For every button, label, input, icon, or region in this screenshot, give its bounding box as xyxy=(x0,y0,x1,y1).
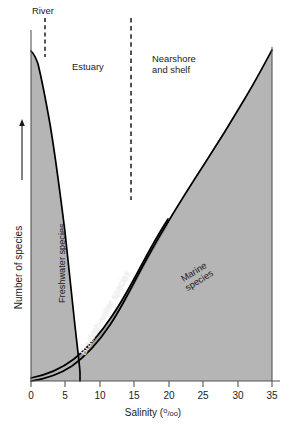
x-axis-title-text: Salinity ( xyxy=(125,407,163,418)
x-axis-title-close: ) xyxy=(178,407,181,418)
x-tick-label-20: 20 xyxy=(158,390,180,401)
zone-label-nearshore-and-shelf: Nearshore and shelf xyxy=(152,54,196,75)
y-axis-title: Number of species xyxy=(13,193,24,343)
chart-figure: River Estuary Nearshore and shelf Freshw… xyxy=(0,0,306,429)
zone-label-estuary: Estuary xyxy=(72,62,104,73)
x-tick-label-15: 15 xyxy=(123,390,145,401)
x-axis-ticks xyxy=(31,381,272,387)
permille-symbol: o/oo xyxy=(163,408,178,418)
x-tick-label-10: 10 xyxy=(89,390,111,401)
x-tick-label-25: 25 xyxy=(192,390,214,401)
y-axis-arrow-icon xyxy=(19,119,25,180)
x-tick-label-30: 30 xyxy=(227,390,249,401)
x-tick-label-0: 0 xyxy=(20,390,42,401)
zone-label-river: River xyxy=(32,6,54,17)
x-tick-label-35: 35 xyxy=(261,390,283,401)
region-label-freshwater-species: Freshwater species xyxy=(57,223,67,303)
freshwater-species-area xyxy=(31,51,80,381)
x-tick-label-5: 5 xyxy=(54,390,76,401)
x-axis-title: Salinity (o/oo) xyxy=(0,406,306,419)
permille-sub: /oo xyxy=(167,410,177,419)
